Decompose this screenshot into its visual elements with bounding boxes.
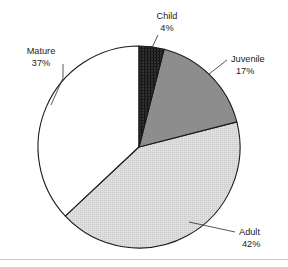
slice-label-adult-value: 42% <box>242 239 260 249</box>
pie-chart-svg: Child 4% Juvenile 17% Adult 42% Mature 3… <box>0 0 288 267</box>
pie-chart-figure: Child 4% Juvenile 17% Adult 42% Mature 3… <box>0 0 288 267</box>
slice-label-child-value: 4% <box>160 23 173 33</box>
slice-label-child-name: Child <box>157 11 178 21</box>
slice-label-mature-name: Mature <box>27 46 56 56</box>
slice-label-juvenile-value: 17% <box>236 66 254 76</box>
slice-label-juvenile-name: Juvenile <box>231 54 265 64</box>
slice-label-adult-name: Adult <box>239 227 260 237</box>
slice-label-mature-value: 37% <box>32 58 50 68</box>
pie-slices <box>38 46 240 248</box>
